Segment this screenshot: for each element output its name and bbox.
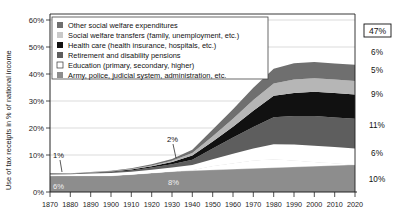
legend-swatch-health-care [57,42,63,48]
x-tick-1920: 1920 [144,200,160,209]
x-tick-1900: 1900 [103,200,119,209]
value-label-social-transfers: 5% [371,66,383,75]
x-tick-1970: 1970 [245,200,261,209]
x-tick-1980: 1980 [266,200,282,209]
x-tick-1930: 1930 [164,200,180,209]
y-axis-title: Use of tax receipts in % of national inc… [4,50,13,190]
legend-item-retirement[interactable]: Retirement and disability pensions [57,51,181,60]
y-tick-60: 60% [29,16,44,25]
x-tick-2000: 2000 [306,200,322,209]
legend-label-other-social-welfare: Other social welfare expenditures [68,21,178,30]
x-tick-1910: 1910 [123,200,139,209]
legend: Other social welfare expenditures Social… [52,17,268,80]
value-label-other-social-welfare: 6% [371,48,383,57]
x-tick-2020: 2020 [347,200,363,209]
stacked-area-chart: Use of tax receipts in % of national inc… [0,0,410,221]
x-tick-1880: 1880 [62,200,78,209]
x-tick-1990: 1990 [286,200,302,209]
x-tick-1890: 1890 [83,200,99,209]
x-tick-1940: 1940 [184,200,200,209]
y-tick-30: 30% [29,97,44,106]
legend-swatch-education [57,62,63,68]
legend-label-health-care: Health care (health insurance, hospitals… [68,41,216,50]
legend-swatch-army-police [57,72,63,78]
y-tick-50: 50% [29,43,44,52]
legend-swatch-social-transfers [57,32,63,38]
legend-label-retirement: Retirement and disability pensions [68,51,181,60]
x-tick-2010: 2010 [327,200,343,209]
y-tick-40: 40% [29,70,44,79]
value-label-education: 6% [371,149,383,158]
x-tick-1950: 1950 [205,200,221,209]
legend-item-other-social-welfare[interactable]: Other social welfare expenditures [57,21,178,30]
legend-item-army-police[interactable]: Army, police, judicial system, administr… [57,71,226,80]
value-label-army-police: 10% [369,175,385,184]
y-tick-10: 10% [29,151,44,160]
x-tick-1870: 1870 [42,200,58,209]
chart-container: Use of tax receipts in % of national inc… [0,0,410,221]
total-value-label: 47% [369,26,387,36]
y-tick-0: 0% [33,188,44,197]
value-label-health-care: 9% [371,90,383,99]
value-label-retirement: 11% [369,121,385,130]
annotation-8-percent: 8% [168,178,179,187]
legend-item-social-transfers[interactable]: Social welfare transfers (family, unempl… [57,31,239,40]
legend-swatch-retirement [57,52,63,58]
annotation-1-percent: 1% [53,151,64,160]
legend-item-education[interactable]: Education (primary, secondary, higher) [57,61,194,70]
legend-item-health-care[interactable]: Health care (health insurance, hospitals… [57,41,216,50]
annotation-2-percent: 2% [167,135,178,144]
legend-label-education: Education (primary, secondary, higher) [68,61,194,70]
legend-swatch-other-social-welfare [57,22,63,28]
y-tick-20: 20% [29,124,44,133]
legend-label-social-transfers: Social welfare transfers (family, unempl… [68,31,239,40]
x-tick-1960: 1960 [225,200,241,209]
annotation-6-percent: 6% [53,182,64,191]
legend-label-army-police: Army, police, judicial system, administr… [68,71,226,80]
